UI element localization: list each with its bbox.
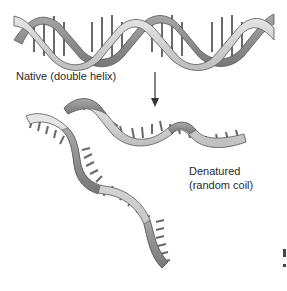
denatured-random-coil-label: Denatured (random coil) <box>189 164 253 192</box>
denatured-label-line2: (random coil) <box>189 178 253 192</box>
cropped-edge-mark <box>283 264 286 267</box>
dna-denaturation-figure <box>0 0 287 291</box>
cropped-edge-mark <box>283 249 286 257</box>
denatured-strand-lower <box>26 114 170 268</box>
double-helix <box>14 14 274 71</box>
denatured-label-line1: Denatured <box>189 164 253 178</box>
denaturation-arrow-icon <box>151 72 159 107</box>
native-double-helix-label: Native (double helix) <box>16 69 116 83</box>
